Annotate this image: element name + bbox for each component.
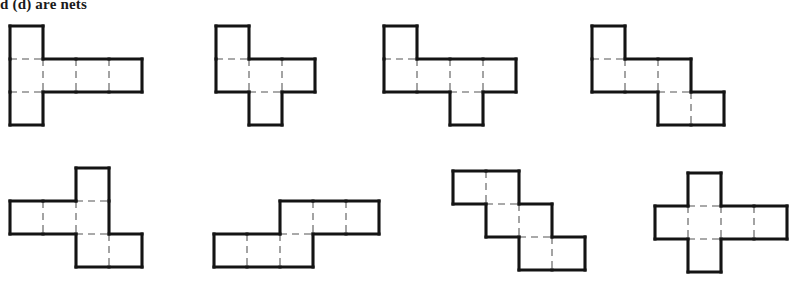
net-cell (214, 234, 247, 267)
net-5-cross-offset (6, 164, 146, 271)
net-cell (384, 59, 417, 92)
net-6-s-shape (210, 197, 383, 271)
net-cell (384, 26, 417, 59)
net-8-plus-shape (651, 169, 790, 276)
net-cell (552, 237, 585, 270)
net-cell (43, 59, 76, 92)
net-cell (658, 92, 691, 125)
net-cell (109, 234, 142, 267)
net-cell (109, 59, 142, 92)
net-cell (76, 234, 109, 267)
net-7-descending-stair (449, 167, 589, 274)
net-cell (721, 206, 754, 239)
net-cell (280, 234, 313, 267)
net-cell (519, 237, 552, 270)
net-cell (519, 204, 552, 237)
net-2-z-offset (212, 22, 319, 129)
net-cell (313, 201, 346, 234)
net-cell (216, 26, 249, 59)
net-cell (592, 59, 625, 92)
net-cell (43, 201, 76, 234)
net-cell (249, 92, 282, 125)
net-cell (688, 206, 721, 239)
net-cell (10, 201, 43, 234)
net-cell (483, 59, 516, 92)
net-cell (76, 168, 109, 201)
net-3-offset-row-four (380, 22, 520, 129)
net-cell (76, 201, 109, 234)
figure-caption: d (d) are nets (0, 0, 400, 13)
net-cell (688, 173, 721, 206)
net-cell (486, 204, 519, 237)
net-cell (10, 26, 43, 59)
net-cell (76, 59, 109, 92)
net-cell (10, 92, 43, 125)
net-cell (247, 234, 280, 267)
net-cell (658, 59, 691, 92)
net-4-staircase (588, 22, 728, 129)
net-cell (754, 206, 787, 239)
net-cell (216, 59, 249, 92)
net-cell (691, 92, 724, 125)
net-cell (625, 59, 658, 92)
net-cell (280, 201, 313, 234)
net-cell (282, 59, 315, 92)
net-cell (10, 59, 43, 92)
net-cell (655, 206, 688, 239)
net-cell (592, 26, 625, 59)
net-cell (249, 59, 282, 92)
net-cell (417, 59, 450, 92)
cube-nets-figure: d (d) are nets (0, 0, 790, 284)
net-1-t-shape (6, 22, 146, 129)
net-cell (688, 239, 721, 272)
net-cell (450, 92, 483, 125)
net-cell (453, 171, 486, 204)
net-cell (486, 171, 519, 204)
net-cell (346, 201, 379, 234)
net-cell (450, 59, 483, 92)
